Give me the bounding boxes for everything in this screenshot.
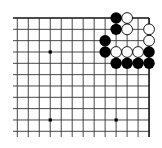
black-stone	[110, 24, 121, 35]
white-stone	[122, 13, 133, 24]
black-stone	[110, 12, 121, 23]
black-stone	[143, 58, 154, 69]
white-stone	[111, 47, 122, 58]
black-stone	[99, 46, 110, 57]
black-stone	[132, 58, 143, 69]
go-board[interactable]	[0, 0, 162, 148]
white-stone	[144, 35, 155, 46]
board-grid	[13, 18, 149, 137]
white-stone	[133, 47, 144, 58]
white-stone	[122, 47, 133, 58]
white-stone	[122, 24, 133, 35]
white-stone	[144, 24, 155, 35]
star-point	[49, 50, 52, 53]
black-stone	[121, 58, 132, 69]
star-point	[49, 118, 52, 121]
black-stone	[99, 35, 110, 46]
star-point	[115, 118, 118, 121]
black-stone	[143, 46, 154, 57]
black-stone	[110, 58, 121, 69]
